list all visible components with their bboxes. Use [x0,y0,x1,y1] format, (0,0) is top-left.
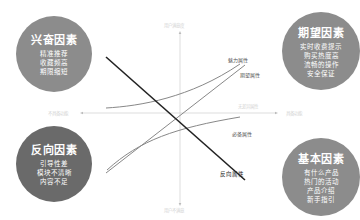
arrow-left-icon [80,112,83,115]
quadrant-title: 期望因素 [298,24,344,40]
quadrant-title: 反向因素 [31,141,77,157]
axis-label-left: 不具备功能 [48,110,68,116]
quadrant-title: 兴奋因素 [31,31,77,47]
axis-label-bottom: 用户不满意 [164,207,184,213]
quadrant-line: 购买热度高 [304,52,339,61]
must-be-curve [107,117,240,170]
reverse-label: 反向属性 [220,170,244,178]
arrow-right-icon [275,112,278,115]
attractive-curve [106,64,240,108]
quadrant-line: 内容不足 [40,178,68,187]
quadrant-line: 期限缩短 [40,68,68,77]
quadrant-line: 模块不清晰 [37,169,72,178]
quadrant-line: 实时收费提示 [300,43,342,52]
attractive-label: 魅力属性 [228,56,248,63]
quadrant-line: 有什么产品 [304,169,339,178]
quadrant-line: 收藏频高 [40,59,68,68]
quadrant-expectation: 期望因素 实时收费提示 购买热度高 流畅的操作 安全保证 [282,12,360,90]
quadrant-basic: 基本因素 有什么产品 热门的活动 产品介绍 新手指引 [282,138,360,216]
quadrant-excitement: 兴奋因素 精准推荐 收藏频高 期限缩短 [16,16,92,92]
quadrant-line: 热门的活动 [304,178,339,187]
arrow-up-icon [179,31,182,34]
reverse-line [106,57,245,180]
quadrant-reverse: 反向因素 引导性差 模块不清晰 内容不足 [16,126,92,202]
must-be-label: 必备属性 [232,130,252,137]
performance-label: 期望属性 [240,71,260,78]
quadrant-line: 新手指引 [307,196,335,205]
quadrant-line: 精准推荐 [40,50,68,59]
quadrant-title: 基本因素 [298,150,344,166]
arrow-down-icon [179,203,182,206]
indifferent-label: 无差异属性 [238,103,258,109]
quadrant-line: 产品介绍 [307,187,335,196]
axis-label-right: 具备功能 [286,110,302,116]
axis-label-top: 用户满意度 [164,22,184,28]
quadrant-line: 安全保证 [307,70,335,79]
quadrant-line: 流畅的操作 [304,61,339,70]
quadrant-line: 引导性差 [40,160,68,169]
